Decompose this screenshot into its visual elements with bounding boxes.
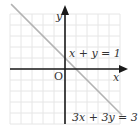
origin-label: O <box>54 70 63 83</box>
axes <box>10 5 128 124</box>
x-axis-label: x <box>113 71 120 84</box>
x-axis-arrow-icon <box>119 65 128 73</box>
label-eq1: x + y = 1 <box>69 47 121 60</box>
label-eq2: 3x + 3y = 3 <box>72 111 138 124</box>
y-axis-label: y <box>55 10 63 23</box>
coordinate-diagram: x + y = 1 3x + 3y = 3 O x y <box>0 0 138 136</box>
